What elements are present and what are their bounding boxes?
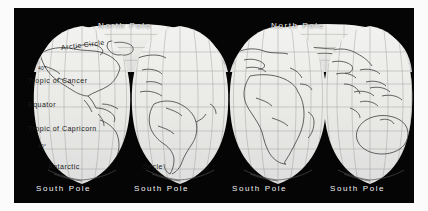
label-equator: Equator bbox=[28, 101, 56, 108]
map-plate: North Pole North Pole Arctic Circle 40° … bbox=[14, 8, 414, 203]
label-tropic-of-cancer: Tropic of Cancer bbox=[28, 77, 87, 84]
label-south-pole-2: South Pole bbox=[134, 184, 189, 193]
label-forty-north: 40° bbox=[38, 65, 46, 71]
label-antarctic: Antarctic bbox=[48, 163, 80, 170]
label-south-pole-3: South Pole bbox=[232, 184, 287, 193]
label-north-pole-2: North Pole bbox=[271, 21, 325, 30]
map-figure: North Pole North Pole Arctic Circle 40° … bbox=[0, 0, 428, 211]
globe-gores-illustration bbox=[14, 8, 414, 203]
label-forty-south: 40° bbox=[38, 143, 46, 149]
label-south-pole-4: South Pole bbox=[330, 184, 385, 193]
label-south-pole-1: South Pole bbox=[36, 184, 91, 193]
label-antarctic-circle-continuation: Circle bbox=[142, 163, 163, 170]
label-tropic-of-capricorn: Tropic of Capricorn bbox=[28, 125, 97, 132]
label-north-pole-1: North Pole bbox=[98, 21, 152, 30]
